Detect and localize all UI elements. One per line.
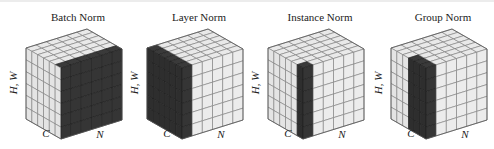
axis-label-n: N	[216, 128, 225, 140]
axis-label-n: N	[337, 128, 346, 140]
panel-title: Group Norm	[415, 11, 472, 23]
cube	[26, 29, 122, 139]
panel-group-norm: Group Norm H, WCN	[372, 11, 487, 140]
axis-label-n: N	[460, 128, 469, 140]
axis-label-c: C	[284, 127, 292, 139]
axis-label-hw: H, W	[249, 71, 261, 95]
panel-instance-norm: Instance Norm H, WCN	[249, 11, 364, 140]
cube	[268, 29, 364, 139]
cube	[391, 29, 487, 139]
cube	[147, 29, 243, 139]
panel-title: Instance Norm	[287, 11, 353, 23]
axis-label-n: N	[95, 128, 104, 140]
axis-label-hw: H, W	[372, 71, 384, 95]
axis-label-hw: H, W	[128, 71, 140, 95]
panel-layer-norm: Layer Norm H, WCN	[128, 11, 243, 140]
axis-label-c: C	[163, 127, 171, 139]
panel-title: Batch Norm	[51, 11, 106, 23]
axis-label-hw: H, W	[7, 71, 19, 95]
axis-label-c: C	[42, 127, 50, 139]
panel-title: Layer Norm	[172, 11, 227, 23]
panel-batch-norm: Batch Norm H, WCN	[7, 11, 122, 140]
axis-label-c: C	[407, 127, 415, 139]
normalization-methods-figure: Batch Norm H, WCN Layer Norm H, WCN Inst…	[0, 0, 494, 149]
